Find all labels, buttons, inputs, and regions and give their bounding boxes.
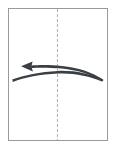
fold-instruction-diagram (0, 0, 116, 149)
diagram-canvas (0, 0, 116, 149)
